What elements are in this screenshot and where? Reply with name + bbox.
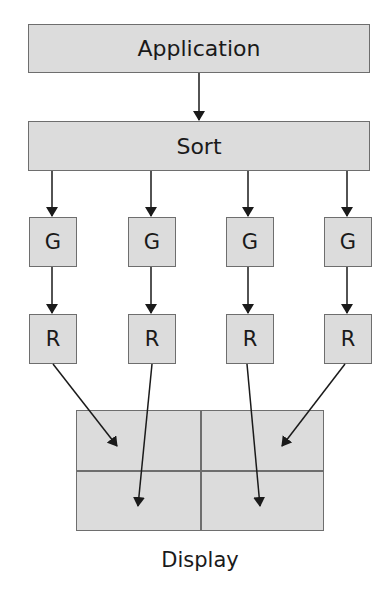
display-label: Display xyxy=(150,548,250,572)
arrows-layer xyxy=(0,0,391,598)
arrow-r3-display xyxy=(247,364,260,506)
arrow-r4-display xyxy=(282,364,345,446)
arrow-r2-display xyxy=(138,364,152,506)
arrow-r1-display xyxy=(53,364,117,446)
